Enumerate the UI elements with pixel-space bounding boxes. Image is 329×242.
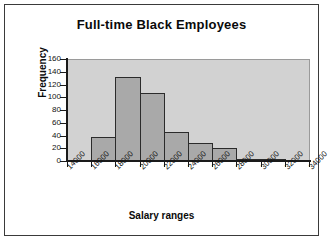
y-tick-label: 80 — [15, 106, 61, 114]
y-tick-mark — [60, 85, 67, 86]
y-tick-mark — [60, 97, 67, 98]
y-tick-mark — [60, 72, 67, 73]
y-tick-mark — [60, 148, 67, 149]
y-tick-label: 20 — [15, 144, 61, 152]
y-tick-label: 120 — [15, 81, 61, 89]
x-axis-title: Salary ranges — [5, 210, 318, 221]
y-tick-label: 40 — [15, 132, 61, 140]
y-tick-mark — [60, 123, 67, 124]
y-tick-mark — [60, 161, 67, 162]
y-axis-tick-labels: 160140120100806040200 — [9, 5, 61, 235]
y-tick-label: 0 — [15, 157, 61, 165]
y-tick-label: 100 — [15, 93, 61, 101]
chart-frame: Full-time Black Employees Frequency 1601… — [4, 4, 319, 236]
y-tick-label: 160 — [15, 55, 61, 63]
y-tick-label: 140 — [15, 68, 61, 76]
x-tick-label: 34000 — [307, 149, 329, 171]
bars-container — [67, 59, 309, 161]
y-tick-mark — [60, 59, 67, 60]
y-tick-mark — [60, 110, 67, 111]
x-axis-tick-labels: 1400016000180002000022000240002600028000… — [67, 165, 317, 205]
y-tick-mark — [60, 136, 67, 137]
y-tick-label: 60 — [15, 119, 61, 127]
